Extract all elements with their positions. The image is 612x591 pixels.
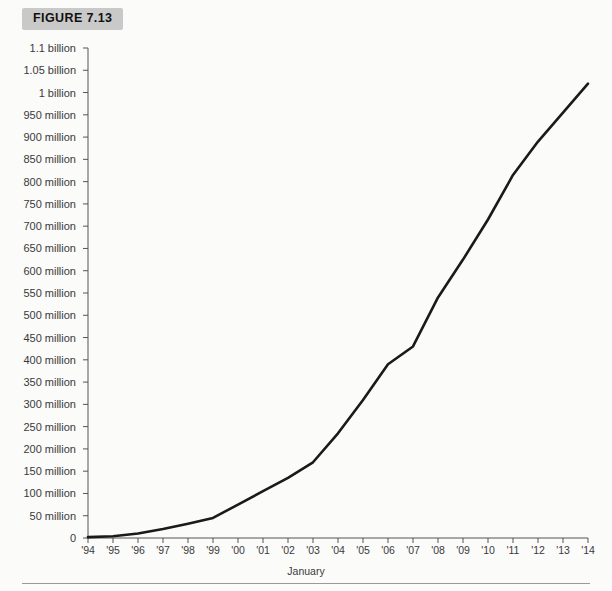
y-axis-tick-label: 650 million xyxy=(23,243,76,254)
y-axis-tick-label: 600 million xyxy=(23,265,76,276)
x-axis-tick-label: '09 xyxy=(456,545,470,556)
y-axis-tick-label: 250 million xyxy=(23,421,76,432)
x-axis-tick-label: '08 xyxy=(431,545,445,556)
x-axis-tick-label: '03 xyxy=(306,545,320,556)
y-axis-tick-label: 1.05 billion xyxy=(23,65,76,76)
x-axis-tick-label: '95 xyxy=(106,545,120,556)
y-axis-tick-label: 750 million xyxy=(23,198,76,209)
x-axis-tick-label: '14 xyxy=(581,545,595,556)
x-axis-tick-label: '05 xyxy=(356,545,370,556)
x-axis-tick-label: '11 xyxy=(507,545,520,556)
x-axis-tick-label: '96 xyxy=(131,545,145,556)
y-axis-tick-label: 200 million xyxy=(23,443,76,454)
x-axis-tick-label: '99 xyxy=(206,545,220,556)
x-axis-tick-label: '06 xyxy=(381,545,395,556)
y-axis-tick-label: 550 million xyxy=(23,288,76,299)
y-axis-tick-label: 100 million xyxy=(23,488,76,499)
x-axis-tick-label: '98 xyxy=(181,545,195,556)
y-axis-ticks xyxy=(83,48,88,538)
chart-plot-area xyxy=(0,0,612,591)
x-axis-tick-label: '94 xyxy=(81,545,95,556)
y-axis-tick-label: 350 million xyxy=(23,377,76,388)
y-axis-tick-label: 900 million xyxy=(23,132,76,143)
y-axis-labels: 050 million100 million150 million200 mil… xyxy=(0,0,76,591)
y-axis-tick-label: 300 million xyxy=(23,399,76,410)
x-axis-tick-label: '02 xyxy=(281,545,295,556)
x-axis-ticks xyxy=(88,538,588,543)
y-axis-tick-label: 1.1 billion xyxy=(30,43,76,54)
x-axis-tick-label: '04 xyxy=(331,545,345,556)
y-axis-tick-label: 450 million xyxy=(23,332,76,343)
x-axis-tick-label: '07 xyxy=(406,545,420,556)
x-axis-title: January xyxy=(0,565,612,577)
data-series-line xyxy=(88,84,588,537)
y-axis-tick-label: 0 xyxy=(70,533,76,544)
x-axis-tick-label: '10 xyxy=(481,545,495,556)
y-axis-tick-label: 1 billion xyxy=(39,87,76,98)
footer-divider xyxy=(22,583,590,584)
y-axis-tick-label: 500 million xyxy=(23,310,76,321)
x-axis-labels: '94'95'96'97'98'99'00'01'02'03'04'05'06'… xyxy=(0,545,612,561)
y-axis-tick-label: 950 million xyxy=(23,109,76,120)
x-axis-tick-label: '12 xyxy=(531,545,545,556)
line-chart: 050 million100 million150 million200 mil… xyxy=(0,0,612,591)
y-axis-tick-label: 50 million xyxy=(30,510,76,521)
x-axis-tick-label: '13 xyxy=(556,545,570,556)
y-axis-tick-label: 150 million xyxy=(23,466,76,477)
y-axis-tick-label: 700 million xyxy=(23,221,76,232)
x-axis-tick-label: '01 xyxy=(256,545,270,556)
y-axis-tick-label: 800 million xyxy=(23,176,76,187)
x-axis-tick-label: '97 xyxy=(156,545,170,556)
y-axis-tick-label: 400 million xyxy=(23,354,76,365)
x-axis-tick-label: '00 xyxy=(231,545,245,556)
y-axis-tick-label: 850 million xyxy=(23,154,76,165)
